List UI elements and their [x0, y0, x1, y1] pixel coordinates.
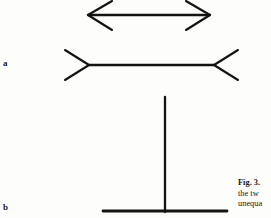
muller-lyer-arrowheads-in-shape — [88, 1, 210, 30]
arrowheads-in-left-fin-lower — [88, 15, 112, 30]
muller-lyer-fins-out-shape — [65, 50, 238, 80]
illusion-figures — [0, 0, 271, 218]
caption-line-2: unequa — [238, 199, 271, 210]
arrowheads-in-right-fin-upper — [186, 1, 210, 15]
figure-page: a b — [0, 0, 271, 218]
fins-out-right-fin-upper — [214, 50, 238, 65]
caption-figure-number: Fig. 3. — [238, 178, 271, 189]
fins-out-right-fin-lower — [214, 65, 238, 80]
figure-caption: Fig. 3. the tw unequa — [238, 178, 271, 210]
fins-out-left-fin-lower — [65, 65, 89, 80]
inverted-t-shape — [103, 97, 227, 212]
caption-line-1: the tw — [238, 189, 271, 200]
figures-canvas — [0, 0, 271, 218]
arrowheads-in-left-fin-upper — [88, 1, 112, 15]
arrowheads-in-right-fin-lower — [186, 15, 210, 30]
fins-out-left-fin-upper — [65, 50, 89, 65]
